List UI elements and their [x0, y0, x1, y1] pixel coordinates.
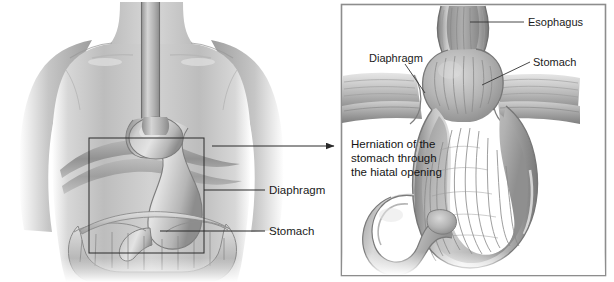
- detail-bottom-fade: [342, 252, 605, 275]
- cardia-small: [142, 117, 169, 135]
- esophagus-tube-small: [141, 2, 160, 122]
- left-panel-torso: [0, 2, 338, 282]
- left-stomach-label: Stomach: [269, 225, 314, 237]
- herniation-caption-line-3: the hiatal opening: [351, 166, 442, 178]
- right-diaphragm-label: Diaphragm: [369, 52, 423, 64]
- illustration-stage: Diaphragm Stomach: [0, 0, 614, 282]
- right-stomach-label: Stomach: [533, 56, 576, 68]
- right-esophagus-label: Esophagus: [528, 16, 584, 28]
- herniation-caption-line-2: stomach through: [351, 152, 437, 164]
- hiatal-hernia-figure: Diaphragm Stomach: [0, 0, 614, 282]
- herniation-caption: Herniation of the stomach through the hi…: [351, 138, 442, 178]
- pectoral-highlight-right: [181, 58, 215, 66]
- pectoral-highlight-left: [88, 58, 122, 66]
- herniation-caption-line-1: Herniation of the: [351, 138, 435, 150]
- left-diaphragm-label: Diaphragm: [269, 184, 325, 196]
- bottom-fade: [0, 258, 338, 282]
